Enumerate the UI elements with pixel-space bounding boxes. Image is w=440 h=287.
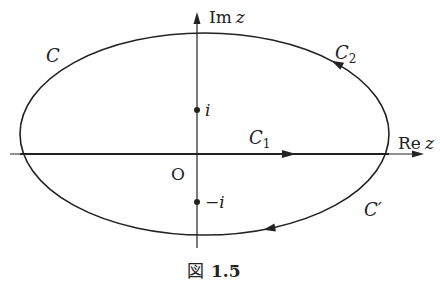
imag-axis-arrow-icon <box>194 12 201 24</box>
real-axis-label: Rez <box>398 133 435 153</box>
point-i-label: i <box>205 100 210 120</box>
c1-arrow-icon <box>282 150 296 158</box>
point-neg-i-label: −i <box>205 192 225 212</box>
point-neg-i <box>194 199 200 205</box>
imag-axis-label: Imz <box>209 7 246 27</box>
curve-c2-label: C2 <box>335 42 356 66</box>
origin-label: O <box>171 164 185 184</box>
contour-diagram: Imz Rez O i −i C C2 C1 C′ 図1.5 <box>0 0 440 287</box>
curve-c1-label: C1 <box>249 127 270 151</box>
curve-cprime-label: C′ <box>364 199 382 220</box>
point-i <box>194 107 200 113</box>
cprime-arrow-icon <box>263 224 276 234</box>
curve-c-label: C <box>46 45 60 66</box>
figure-caption: 図1.5 <box>187 261 241 281</box>
